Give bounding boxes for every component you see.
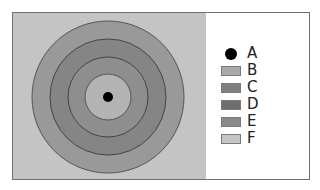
legend-item-f: F xyxy=(221,130,259,147)
legend-item-c: C xyxy=(221,79,259,96)
swatch-icon xyxy=(221,134,241,144)
legend-label: F xyxy=(247,130,256,147)
swatch-icon xyxy=(221,117,241,127)
swatch-icon xyxy=(221,66,241,76)
legend-label: D xyxy=(247,96,259,113)
legend-label: B xyxy=(247,62,257,79)
legend-label: C xyxy=(247,79,257,96)
legend-item-e: E xyxy=(221,113,259,130)
legend-item-b: B xyxy=(221,62,259,79)
legend-label: A xyxy=(247,45,257,62)
legend-label: E xyxy=(247,113,256,130)
legend-item-d: D xyxy=(221,96,259,113)
concentric-target xyxy=(0,0,320,190)
swatch-icon xyxy=(221,83,241,93)
center-dot-a xyxy=(103,92,113,102)
swatch-icon xyxy=(221,100,241,110)
dot-icon xyxy=(225,48,237,60)
legend-item-a: A xyxy=(221,45,259,62)
legend: A B C D E F xyxy=(221,45,259,147)
